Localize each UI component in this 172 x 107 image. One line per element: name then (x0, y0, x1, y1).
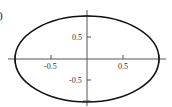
panel-label: ) (0, 9, 3, 22)
ellipse-plot: ) -0.5 0.5 0.5 -0.5 (0, 0, 172, 107)
x-tick-label-neg-half: -0.5 (44, 62, 57, 71)
x-tick-label-pos-half: 0.5 (118, 62, 128, 71)
y-tick-label-neg-half: -0.5 (69, 76, 82, 85)
y-tick-label-pos-half: 0.5 (72, 33, 82, 42)
